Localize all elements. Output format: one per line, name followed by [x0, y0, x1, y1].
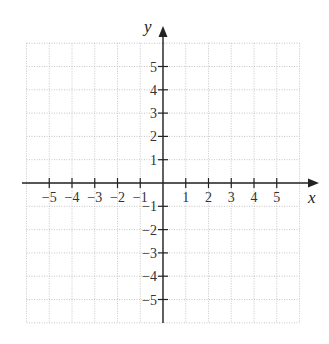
x-tick-label: 5	[273, 190, 280, 205]
y-tick-label: −2	[142, 223, 157, 238]
x-tick-label: −2	[110, 190, 125, 205]
y-tick-label: −1	[142, 199, 157, 214]
y-tick-label: −5	[142, 293, 157, 308]
x-tick-label: 3	[228, 190, 235, 205]
y-tick-label: −3	[142, 246, 157, 261]
y-tick-label: 5	[150, 60, 157, 75]
x-tick-label: 2	[205, 190, 212, 205]
x-tick-label: −4	[65, 190, 80, 205]
y-tick-label: 4	[150, 83, 157, 98]
y-tick-label: 3	[150, 106, 157, 121]
x-tick-label: −3	[87, 190, 102, 205]
x-tick-label: 1	[182, 190, 189, 205]
x-axis-arrow-icon	[308, 179, 319, 188]
axes	[22, 26, 319, 323]
coordinate-plane: −5−4−3−2−112345−5−4−3−2−112345 x y	[0, 0, 329, 344]
y-axis-arrow-icon	[159, 26, 168, 37]
x-axis-label: x	[307, 188, 316, 207]
y-tick-label: 1	[150, 153, 157, 168]
y-tick-label: −4	[142, 269, 157, 284]
x-tick-label: −5	[42, 190, 57, 205]
x-tick-label: 4	[251, 190, 258, 205]
y-axis-label: y	[142, 17, 152, 36]
y-tick-label: 2	[150, 129, 157, 144]
